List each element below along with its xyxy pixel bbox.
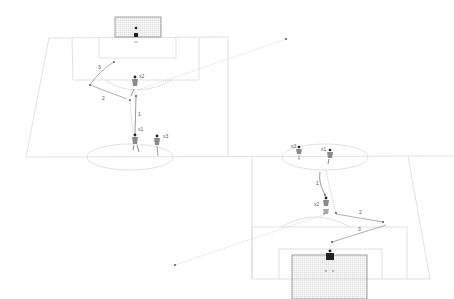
- bottom-player-x1: x1: [321, 146, 333, 164]
- svg-text:x1: x1: [321, 146, 327, 152]
- bottom-dribble: [326, 170, 336, 213]
- top-pass-1-label: 1: [138, 111, 141, 117]
- top-player-x3: x3: [154, 133, 169, 156]
- top-pass-3: [90, 62, 114, 85]
- bottom-pitch: [252, 144, 430, 299]
- top-pass-2-label: 2: [102, 95, 105, 101]
- top-penalty-arc: [105, 80, 172, 90]
- bottom-player-x3: x3: [291, 143, 302, 160]
- bottom-pass-2-label: 2: [359, 209, 362, 215]
- bottom-passes: 1 2 3: [174, 170, 386, 266]
- bottom-pass-1-label: 1: [316, 180, 319, 186]
- svg-text:x3: x3: [291, 143, 297, 149]
- top-halfway-line: [26, 156, 454, 157]
- top-pass-1: [135, 96, 136, 134]
- svg-text:x1: x1: [138, 126, 144, 132]
- drill-diagram: 3 2 1 x2 x1 x3: [0, 0, 454, 299]
- top-player-x1: x1: [132, 126, 144, 152]
- top-passes: 3 2 1: [89, 38, 287, 135]
- top-pitch-boundary: [26, 37, 228, 157]
- top-player-x2: x2: [132, 73, 145, 86]
- top-penalty-area: [72, 38, 199, 80]
- bottom-pass-1: [320, 172, 325, 195]
- svg-text:x2: x2: [139, 73, 145, 79]
- top-long-run: [138, 39, 286, 90]
- svg-text:x2: x2: [314, 201, 320, 207]
- bottom-player-x2: x2: [314, 197, 329, 215]
- svg-text:x3: x3: [163, 133, 169, 139]
- bottom-pass-2: [336, 214, 383, 222]
- top-goal-area: [99, 38, 176, 58]
- top-pass-2: [90, 85, 127, 99]
- top-pass-3-label: 3: [98, 64, 101, 70]
- bottom-pass-3-label: 3: [358, 226, 361, 232]
- top-pitch: [26, 17, 454, 170]
- top-dribble: [130, 100, 133, 135]
- bottom-goal: [292, 255, 367, 299]
